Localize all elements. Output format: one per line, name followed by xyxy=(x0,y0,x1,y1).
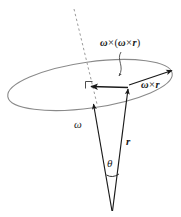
label-tangential-velocity: ω×r xyxy=(141,80,160,91)
leader-line xyxy=(119,52,121,76)
label-omega-2: ω xyxy=(118,37,126,48)
label-omega-1: ω xyxy=(100,37,108,48)
figure-canvas xyxy=(0,0,181,217)
label-r-outer: r xyxy=(156,79,160,90)
label-omega-3: ω xyxy=(141,79,149,90)
label-centripetal-acceleration: ω×(ω×r) xyxy=(100,38,140,49)
label-angular-velocity: ω xyxy=(74,119,82,130)
centripetal-acceleration-vector xyxy=(91,87,128,88)
physics-figure: ω×(ω×r) ω×r ω r θ xyxy=(0,0,181,217)
label-angle-theta: θ xyxy=(107,158,112,169)
label-position-vector: r xyxy=(126,136,130,147)
cross-operator-1: × xyxy=(108,37,115,48)
position-vector xyxy=(113,89,129,211)
rotation-axis-dashed-line xyxy=(74,9,97,104)
cross-operator-3: × xyxy=(149,79,156,90)
cross-operator-2: × xyxy=(126,37,133,48)
close-paren: ) xyxy=(137,37,141,48)
